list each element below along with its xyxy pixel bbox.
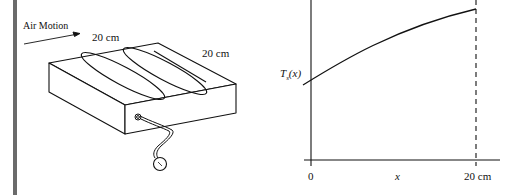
chart-axes bbox=[304, 0, 500, 166]
diagram-canvas bbox=[0, 0, 523, 195]
x-axis-label: x bbox=[395, 170, 400, 182]
air-motion-label: Air Motion bbox=[23, 20, 68, 31]
air-motion-arrow-icon bbox=[24, 32, 80, 44]
y-axis-label: Ts(x) bbox=[280, 67, 301, 82]
x-tick-end: 20 cm bbox=[464, 170, 491, 182]
front-dimension-label: 20 cm bbox=[92, 31, 119, 43]
side-dimension-label: 20 cm bbox=[202, 47, 229, 59]
temperature-curve bbox=[303, 9, 476, 85]
gauge-icon bbox=[154, 158, 167, 171]
x-tick-zero: 0 bbox=[308, 170, 314, 182]
